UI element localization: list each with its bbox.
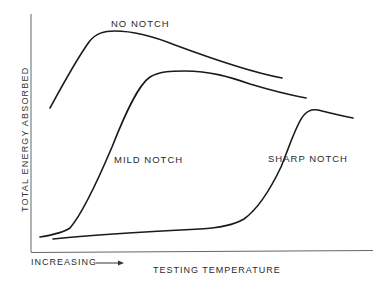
x-direction-label: INCREASING [31, 257, 97, 267]
x-axis [31, 251, 373, 253]
x-axis-label: TESTING TEMPERATURE [153, 265, 281, 275]
label-no-notch: NO NOTCH [111, 18, 170, 29]
series-no-notch [50, 31, 282, 108]
y-axis-label: TOTAL ENERGY ABSORBED [20, 67, 30, 212]
series-sharp-notch [53, 110, 353, 239]
label-sharp-notch: SHARP NOTCH [268, 153, 348, 164]
right-arrow-icon [96, 261, 124, 266]
chart-canvas [0, 0, 388, 288]
label-mild-notch: MILD NOTCH [114, 154, 183, 165]
